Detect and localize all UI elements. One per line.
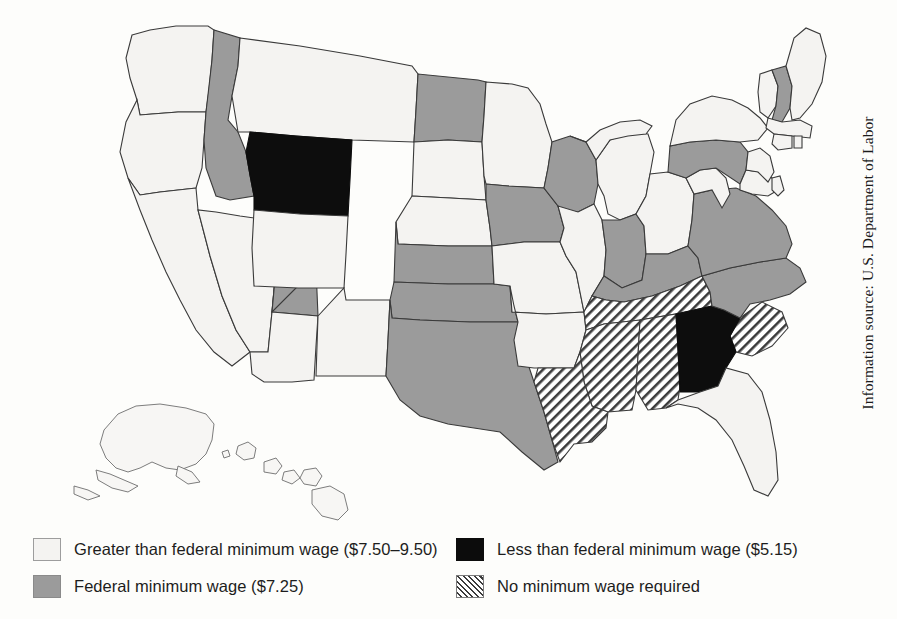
- legend-column-right: Less than federal minimum wage ($5.15) N…: [456, 534, 798, 608]
- state-ME[interactable]: [786, 28, 826, 120]
- hatch-swatch: [456, 575, 484, 598]
- legend-label-no-minimum-wage: No minimum wage required: [497, 577, 700, 596]
- legend-item-federal[interactable]: Federal minimum wage ($7.25): [33, 571, 438, 602]
- state-RI[interactable]: [794, 136, 802, 148]
- legend-item-greater-than-federal[interactable]: Greater than federal minimum wage ($7.50…: [33, 534, 438, 565]
- state-WA[interactable]: [126, 26, 214, 115]
- white-swatch: [33, 538, 61, 561]
- gray-swatch: [33, 575, 61, 598]
- state-MT[interactable]: [232, 38, 418, 142]
- state-AL[interactable]: [636, 314, 680, 410]
- legend-item-less-than-federal[interactable]: Less than federal minimum wage ($5.15): [456, 534, 798, 565]
- us-choropleth-map: [0, 0, 840, 525]
- map-legend: Greater than federal minimum wage ($7.50…: [33, 534, 843, 608]
- state-NY[interactable]: [670, 96, 768, 146]
- black-swatch: [456, 538, 484, 561]
- hawaii-inset[interactable]: [222, 442, 348, 520]
- state-ND[interactable]: [414, 74, 486, 142]
- legend-label-federal: Federal minimum wage ($7.25): [74, 577, 304, 596]
- state-NE[interactable]: [396, 196, 492, 246]
- state-OR[interactable]: [120, 100, 206, 195]
- legend-item-no-minimum-wage[interactable]: No minimum wage required: [456, 571, 798, 602]
- state-IN[interactable]: [602, 214, 646, 288]
- state-NM[interactable]: [316, 288, 390, 376]
- state-shapes: [74, 26, 826, 520]
- state-CT[interactable]: [772, 134, 792, 150]
- state-MA[interactable]: [766, 118, 812, 138]
- legend-label-greater-than-federal: Greater than federal minimum wage ($7.50…: [74, 540, 438, 559]
- state-MN[interactable]: [482, 82, 552, 188]
- source-credit: Information source: U.S. Department of L…: [845, 0, 891, 525]
- state-OK[interactable]: [390, 282, 518, 322]
- legend-column-left: Greater than federal minimum wage ($7.50…: [33, 534, 438, 608]
- alaska-inset[interactable]: [74, 404, 214, 500]
- source-credit-text: Information source: U.S. Department of L…: [859, 116, 877, 409]
- state-CO[interactable]: [252, 210, 348, 288]
- state-SD[interactable]: [412, 140, 486, 200]
- minimum-wage-map-figure: Information source: U.S. Department of L…: [0, 0, 897, 619]
- legend-label-less-than-federal: Less than federal minimum wage ($5.15): [497, 540, 798, 559]
- state-WY[interactable]: [246, 132, 352, 216]
